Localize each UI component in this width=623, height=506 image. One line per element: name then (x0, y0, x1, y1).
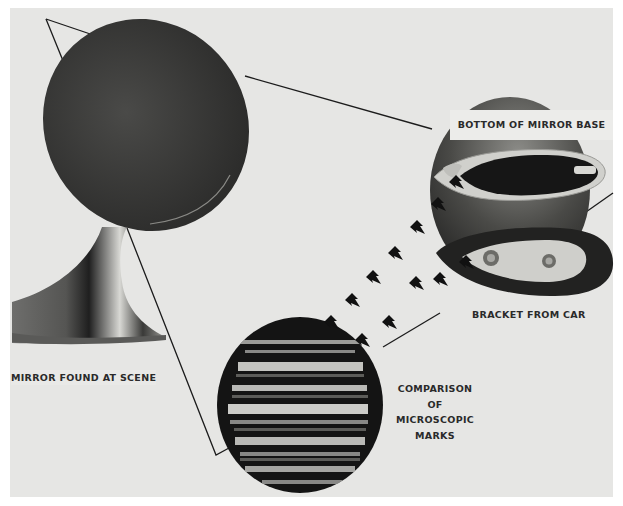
label-comparison-line: OF (396, 397, 474, 413)
label-bottom-of-mirror-base: BOTTOM OF MIRROR BASE (450, 110, 613, 140)
label-comparison-line: COMPARISON (396, 381, 474, 397)
label-mirror-found-at-scene: MIRROR FOUND AT SCENE (11, 370, 156, 385)
label-comparison-line: MICROSCOPIC (396, 412, 474, 428)
label-comparison-of-microscopic-marks: COMPARISON OF MICROSCOPIC MARKS (396, 381, 474, 443)
label-comparison-line: MARKS (396, 428, 474, 444)
evidence-comparison-figure (0, 0, 623, 506)
label-bracket-from-car: BRACKET FROM CAR (472, 309, 586, 320)
